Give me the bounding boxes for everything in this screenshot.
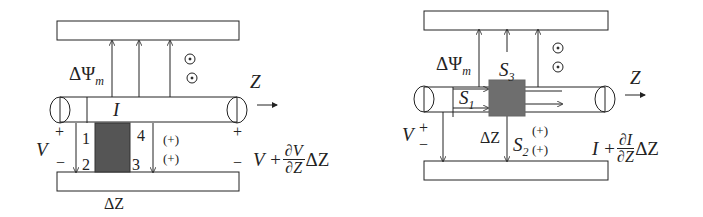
- minus-right-diagram: −: [419, 137, 428, 153]
- voltage-expression: V + ∂V∂Z ΔZ: [253, 143, 329, 176]
- s3-label: S3: [499, 60, 515, 83]
- minus-right: −: [233, 155, 242, 171]
- bottom-conductor: [424, 161, 608, 180]
- delta-z-label-left: ΔZ: [104, 196, 124, 212]
- plus-left: +: [55, 124, 64, 140]
- z-axis-label-right: Z: [630, 68, 641, 87]
- corner-3: 3: [132, 157, 140, 173]
- delta-z-label-right: ΔZ: [480, 130, 500, 146]
- s1-label: S1: [459, 88, 475, 111]
- diagram-canvas: [0, 0, 703, 217]
- voltage-label-right: V: [402, 125, 414, 144]
- plus-right: +: [233, 124, 242, 140]
- s2-label: S2: [513, 135, 529, 158]
- z-axis-label-left: Z: [250, 72, 261, 91]
- minus-left: −: [56, 155, 65, 171]
- sign-top-right: (+): [532, 124, 548, 137]
- sign-bottom-right: (+): [532, 143, 548, 156]
- current-label-left: I: [113, 100, 119, 119]
- corner-2: 2: [82, 157, 90, 173]
- flux-label-left: ΔΨm: [69, 64, 104, 87]
- current-expression: I + ∂I∂Z ΔZ: [592, 132, 659, 165]
- top-conductor: [424, 11, 608, 30]
- corner-4: 4: [137, 128, 145, 144]
- top-conductor: [57, 21, 239, 40]
- voltage-label-left: V: [36, 140, 48, 159]
- plus-right-diagram: +: [419, 120, 428, 136]
- corner-1: 1: [82, 131, 90, 147]
- flux-label-right: ΔΨm: [436, 54, 471, 77]
- sign-top-left: (+): [163, 133, 179, 146]
- sign-bottom-left: (+): [163, 152, 179, 165]
- bottom-conductor: [57, 172, 239, 191]
